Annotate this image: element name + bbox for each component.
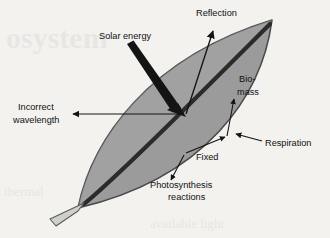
label-photosynthesis-line2: reactions <box>168 192 206 202</box>
label-incorrect-line2: wavelength <box>12 115 59 125</box>
label-photosynthesis-line1: Photosynthesis <box>150 180 213 190</box>
label-biomass-line1: Bio- <box>239 74 255 84</box>
label-solar-energy: Solar energy <box>99 31 151 41</box>
leaf-energy-diagram: osystem thermal available light <box>0 0 330 238</box>
label-fixed: Fixed <box>196 152 218 162</box>
ghost-line-a: thermal <box>4 184 44 199</box>
label-incorrect-line1: Incorrect <box>18 102 54 112</box>
label-biomass-line2: mass <box>237 87 259 97</box>
diagram-canvas: osystem thermal available light <box>0 0 330 238</box>
ghost-word: osystem <box>6 21 108 54</box>
ghost-line-b: available light <box>150 216 224 231</box>
label-respiration: Respiration <box>265 138 311 148</box>
label-reflection: Reflection <box>196 8 237 18</box>
